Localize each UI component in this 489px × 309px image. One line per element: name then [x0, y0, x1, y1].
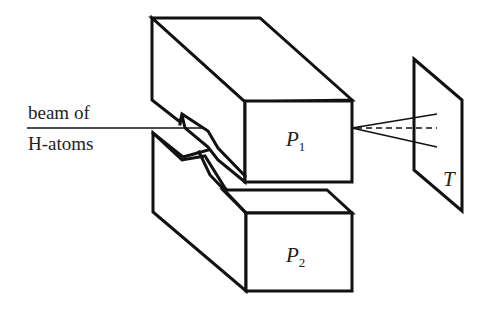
beam-label-line1: beam of: [28, 102, 90, 124]
upper-pole-subscript: 1: [299, 139, 306, 154]
lower-pole-label: P2: [286, 243, 305, 271]
upper-pole-label: P1: [286, 127, 305, 155]
lower-pole-symbol: P: [286, 243, 299, 267]
lower-pole-subscript: 2: [299, 255, 306, 270]
screen-label: T: [443, 167, 455, 192]
deflected-beams: [352, 114, 437, 147]
beam-upper-deflected: [352, 114, 437, 128]
beam-label-line2: H-atoms: [28, 133, 93, 155]
beam-lower-deflected: [352, 128, 437, 147]
upper-pole-symbol: P: [286, 127, 299, 151]
